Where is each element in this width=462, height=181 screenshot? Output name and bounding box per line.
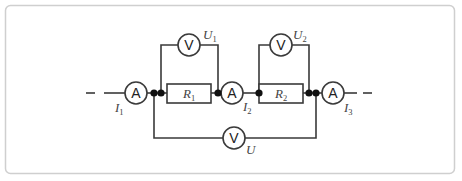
svg-text:A: A: [328, 85, 338, 101]
node-icon: [312, 89, 319, 96]
svg-text:A: A: [131, 85, 141, 101]
circuit-diagram: R1 R2 A I1 A I2 A I3 V U1 V U2 V U: [0, 0, 462, 181]
svg-text:V: V: [229, 130, 239, 146]
node-icon: [305, 89, 312, 96]
node-icon: [255, 89, 262, 96]
node-icon: [214, 89, 221, 96]
u-label: U: [246, 142, 257, 157]
resistor-r1: R1: [167, 84, 211, 103]
node-icon: [150, 89, 157, 96]
node-icon: [157, 89, 164, 96]
resistor-r2: R2: [259, 84, 303, 103]
svg-text:A: A: [227, 85, 237, 101]
svg-text:V: V: [184, 37, 194, 53]
svg-text:V: V: [276, 37, 286, 53]
